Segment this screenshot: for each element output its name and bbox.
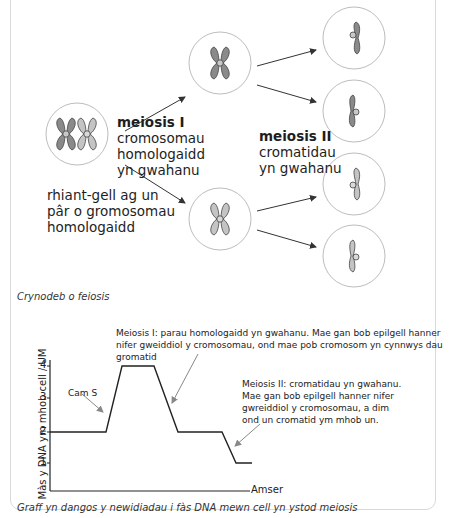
parent-cell-label: rhiant-gell ag un pâr o gromosomau homol… xyxy=(47,187,175,235)
meiosis1-annotation: Meiosis I: parau homologaidd yn gwahanu.… xyxy=(116,327,449,363)
meiosis1-cell-bottom xyxy=(189,188,251,250)
dna-mass-line xyxy=(50,366,252,463)
meiosis2-label: meiosis II cromatidau yn gwahanu xyxy=(259,128,342,176)
annotation-line: Meiosis II: cromatidau yn gwahanu. xyxy=(242,379,401,389)
meiosis2-line: cromatidau xyxy=(259,144,336,160)
x-axis-label: Amser xyxy=(251,484,283,496)
meiosis2-title: meiosis II xyxy=(259,128,332,144)
meiosis1-label: meiosis I cromosomau homologaidd yn gwah… xyxy=(117,114,205,178)
s-phase-annotation: Cam S xyxy=(68,387,97,399)
y-axis-label: Màs y DNA ym mhob cell / UM xyxy=(37,344,49,504)
meiosis-diagram xyxy=(0,0,449,518)
annotation-line: ond un cromatid ym mhob un. xyxy=(242,415,379,425)
annotation-line: Mae gan bob epilgell hanner nifer xyxy=(242,391,394,401)
meiosis2-cell-1 xyxy=(323,7,385,69)
parent-cell xyxy=(46,103,108,165)
parent-label-line: pâr o gromosomau xyxy=(47,203,175,219)
meiosis1-cell-top xyxy=(189,32,251,94)
meiosis2-line: yn gwahanu xyxy=(259,160,342,176)
meiosis1-title: meiosis I xyxy=(117,114,185,130)
graph-caption: Graff yn dangos y newidiadau i fàs DNA m… xyxy=(17,502,358,513)
meiosis1-line: homologaidd xyxy=(117,146,205,162)
meiosis1-line: cromosomau xyxy=(117,130,205,146)
annotation-line: gwreiddiol y cromosomau, a dim xyxy=(242,403,389,413)
meiosis2-cell-4 xyxy=(323,225,385,287)
dna-mass-graph xyxy=(47,354,260,491)
annotation-line: Meiosis I: parau homologaidd yn gwahanu.… xyxy=(116,328,440,338)
parent-label-line: rhiant-gell ag un xyxy=(47,187,159,203)
diagram-caption: Crynodeb o feiosis xyxy=(17,291,110,302)
meiosis2-annotation: Meiosis II: cromatidau yn gwahanu. Mae g… xyxy=(242,378,401,426)
meiosis1-line: yn gwahanu xyxy=(117,162,200,178)
parent-label-line: homologaidd xyxy=(47,219,135,235)
annotation-line: nifer gweiddiol y cromosomau, ond mae po… xyxy=(116,340,443,362)
